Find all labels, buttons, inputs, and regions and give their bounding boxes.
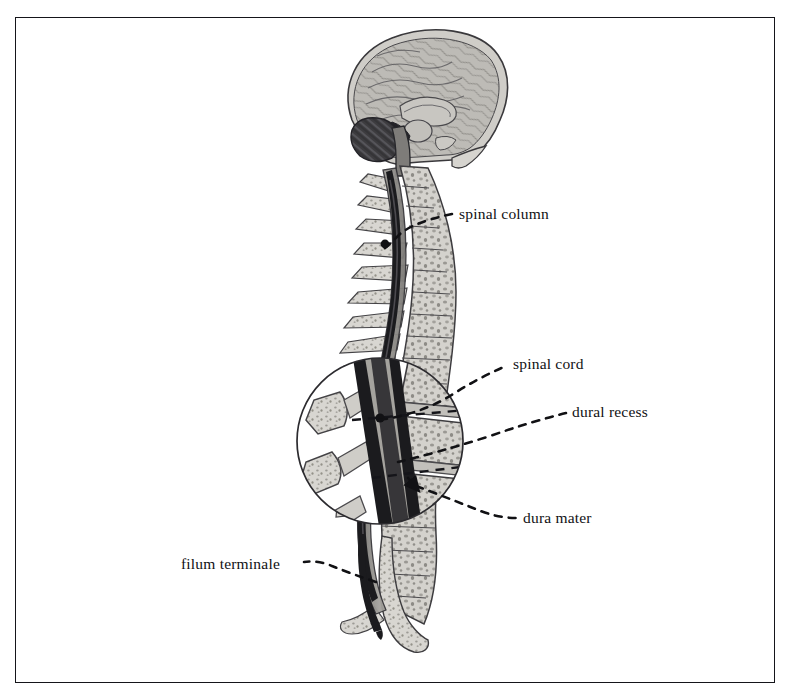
label-spinal-cord: spinal cord (513, 355, 584, 373)
label-filum-terminale: filum terminale (181, 555, 280, 573)
figure-canvas: spinal column spinal cord dural recess d… (0, 0, 788, 699)
brain-sagittal-section (348, 30, 508, 176)
label-dura-mater: dura mater (523, 509, 592, 527)
anatomy-illustration (0, 0, 788, 699)
label-spinal-column: spinal column (459, 205, 549, 223)
label-dural-recess: dural recess (572, 403, 648, 421)
